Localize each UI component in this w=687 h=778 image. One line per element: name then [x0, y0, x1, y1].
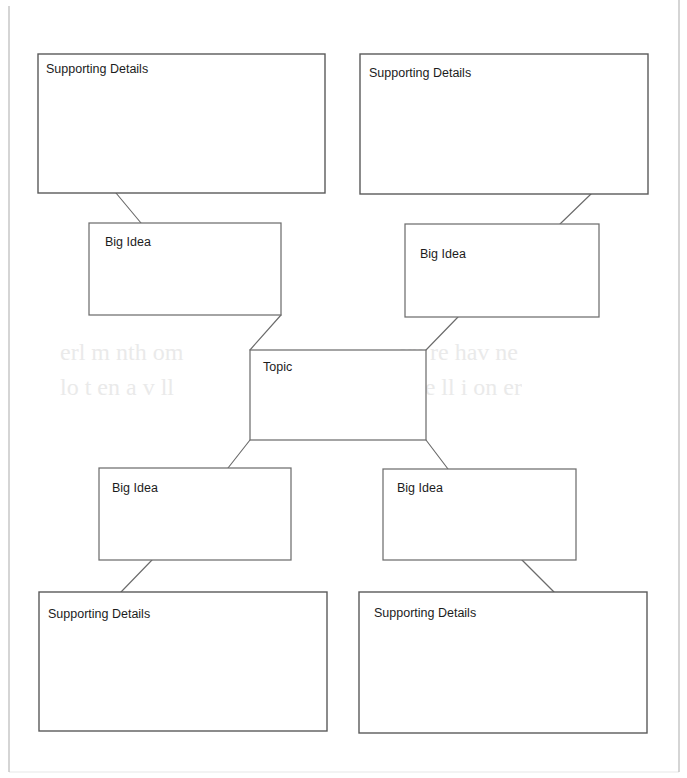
node-label-supporting-details-top-left: Supporting Details [46, 62, 148, 76]
connector-sd-top-left-to-big-idea-top-left [116, 193, 141, 223]
connector-sd-top-right-to-big-idea-top-right [560, 194, 591, 224]
node-label-big-idea-top-left: Big Idea [105, 235, 151, 249]
node-label-supporting-details-top-right: Supporting Details [369, 66, 471, 80]
connector-topic-to-big-idea-bottom-right [426, 440, 448, 469]
connector-topic-to-big-idea-bottom-left [228, 440, 250, 468]
concept-map-canvas: the sold otas evaer rev eg in m e ach t … [0, 0, 687, 778]
connector-big-idea-top-left-to-topic [250, 315, 281, 350]
node-label-supporting-details-bottom-left: Supporting Details [48, 607, 150, 621]
node-box-big-idea-top-right[interactable] [405, 224, 599, 317]
svg-text:lo t en a v ll: lo t en a v ll [60, 374, 174, 400]
node-label-big-idea-top-right: Big Idea [420, 247, 466, 261]
connector-big-idea-bottom-right-to-sd-bottom-right [522, 560, 554, 592]
worksheet-page: the sold otas evaer rev eg in m e ach t … [0, 0, 687, 778]
node-label-topic-center: Topic [263, 360, 292, 374]
node-label-big-idea-bottom-right: Big Idea [397, 481, 443, 495]
node-label-big-idea-bottom-left: Big Idea [112, 481, 158, 495]
node-label-supporting-details-bottom-right: Supporting Details [374, 606, 476, 620]
svg-text:erl m nth om: erl m nth om [60, 339, 184, 365]
connector-big-idea-bottom-left-to-sd-bottom-left [121, 560, 152, 592]
